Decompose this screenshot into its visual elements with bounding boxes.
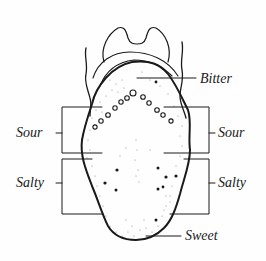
- throat-wall-left: [85, 48, 90, 116]
- label-salty-right: Salty: [218, 176, 246, 190]
- label-bitter: Bitter: [200, 72, 232, 86]
- papillae-dots: [103, 81, 177, 222]
- tongue-diagram: Bitter Sour Sour Salty Salty Sweet: [0, 0, 266, 261]
- tongue-outline: [82, 62, 190, 241]
- sour-right-bracket: [164, 107, 209, 153]
- papillae-circles: [93, 90, 173, 129]
- label-sour-right: Sour: [218, 126, 244, 140]
- label-salty-left: Salty: [16, 176, 44, 190]
- label-sour-left: Sour: [16, 126, 42, 140]
- label-sweet: Sweet: [185, 229, 218, 243]
- epiglottis-outline: [103, 27, 169, 62]
- palate-arch-outer: [93, 52, 178, 78]
